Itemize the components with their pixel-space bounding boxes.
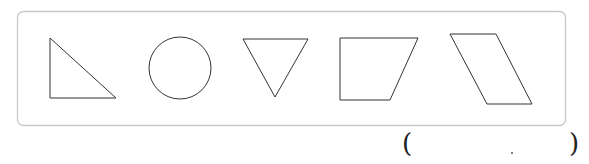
answer-close-paren: ): [569, 130, 579, 156]
answer-open-paren: (: [402, 130, 412, 156]
answer-blank[interactable]: [420, 134, 565, 158]
answer-dot-mark: [511, 152, 513, 154]
